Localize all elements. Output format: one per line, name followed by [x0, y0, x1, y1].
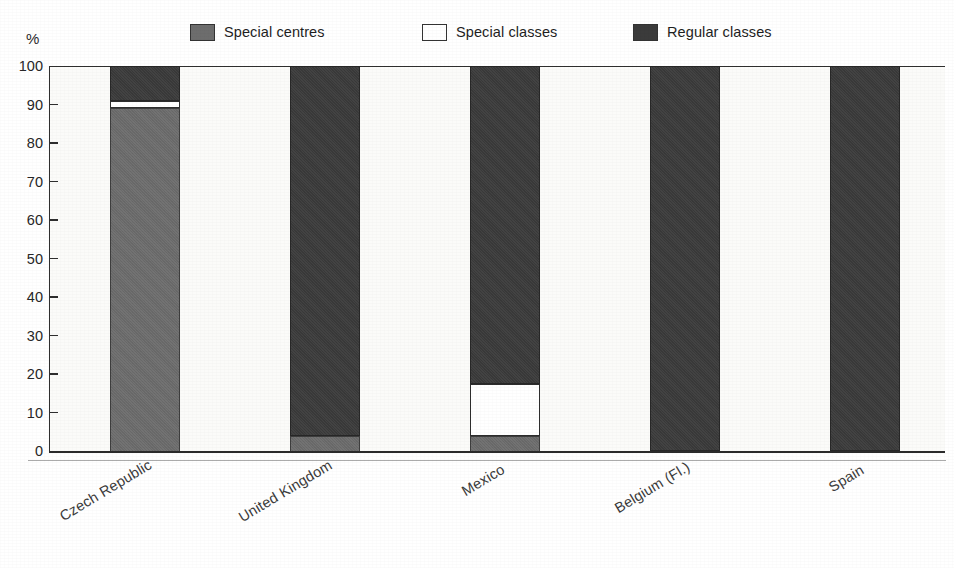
- x-axis-label-mexico: Mexico: [459, 461, 508, 499]
- chart-page: % Special centres Special classes Regula…: [0, 0, 954, 568]
- x-axis-label-czech-republic: Czech Republic: [57, 457, 155, 524]
- x-axis-label-belgium-fl: Belgium (Fl.): [611, 458, 692, 515]
- x-axis-label-spain: Spain: [826, 462, 867, 495]
- x-axis-label-united-kingdom: United Kingdom: [236, 457, 335, 525]
- x-axis-category-labels: Czech RepublicUnited KingdomMexicoBelgiu…: [0, 0, 954, 568]
